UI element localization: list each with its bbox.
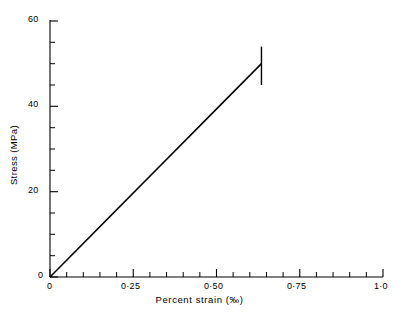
y-axis-minor-ticks bbox=[50, 42, 55, 255]
stress-strain-chart: 60 40 20 0 0 0·25 0·50 0·75 1·0 Stress (… bbox=[0, 0, 399, 314]
x-tick-label-075: 0·75 bbox=[287, 281, 306, 291]
y-axis-title-wrap: Stress (MPa) bbox=[6, 100, 20, 210]
y-tick-label-60: 60 bbox=[28, 14, 39, 24]
chart-canvas bbox=[0, 0, 399, 314]
data-series-stress-strain bbox=[50, 47, 261, 277]
y-tick-label-40: 40 bbox=[28, 99, 39, 109]
y-axis-title: Stress (MPa) bbox=[8, 125, 19, 185]
y-tick-label-20: 20 bbox=[28, 185, 39, 195]
y-tick-label-0: 0 bbox=[38, 270, 43, 280]
x-tick-label-050: 0·50 bbox=[204, 281, 223, 291]
x-tick-label-0: 0 bbox=[47, 281, 52, 291]
axes bbox=[50, 20, 383, 277]
x-tick-label-10: 1·0 bbox=[374, 281, 388, 291]
x-tick-label-025: 0·25 bbox=[121, 281, 140, 291]
x-axis-title: Percent strain (‰) bbox=[0, 294, 399, 305]
elastic-line bbox=[50, 64, 261, 277]
